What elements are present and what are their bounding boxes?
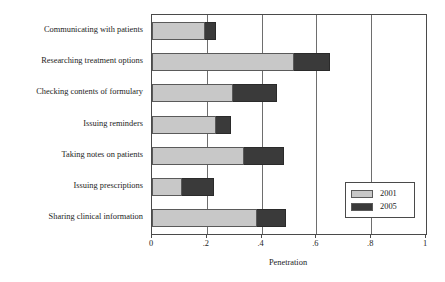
bar-row [152,147,426,165]
bar-segment-2001 [152,178,182,196]
category-label: Communicating with patients [0,25,143,35]
category-axis-labels: Communicating with patientsResearching t… [0,14,147,233]
bar-row [152,22,426,40]
x-tick-label: .8 [367,239,373,248]
x-tick-mark [261,234,262,238]
bar-segment-2001 [152,209,257,227]
x-tick-mark [206,234,207,238]
x-tick-mark [315,234,316,238]
bar-segment-2001 [152,22,205,40]
category-label: Taking notes on patients [0,150,143,160]
x-tick-label: 0 [149,239,153,248]
bar-segment-2001 [152,53,294,71]
x-tick-label: .6 [312,239,318,248]
category-label: Checking contents of formulary [0,87,143,97]
legend-item-2005: 2005 [351,200,409,213]
x-tick-label: .2 [203,239,209,248]
bar-segment-2001 [152,116,216,134]
bar-segment-2001 [152,84,233,102]
bar-row [152,53,426,71]
legend-item-2001: 2001 [351,187,409,200]
category-label: Researching treatment options [0,56,143,66]
penetration-bar-chart: Communicating with patientsResearching t… [0,0,445,282]
bar-row [152,84,426,102]
x-tick-mark [370,234,371,238]
x-tick-mark [425,234,426,238]
x-tick-label: 1 [423,239,427,248]
category-label: Sharing clinical information [0,212,143,222]
category-label: Issuing reminders [0,119,143,129]
bar-segment-2001 [152,147,244,165]
legend-label-2005: 2005 [380,202,397,211]
x-tick-label: .4 [257,239,263,248]
chart-legend: 2001 2005 [345,182,415,218]
legend-label-2001: 2001 [380,189,397,198]
x-axis-title: Penetration [151,258,425,267]
category-label: Issuing prescriptions [0,181,143,191]
bar-row [152,116,426,134]
legend-swatch-2001 [351,190,373,198]
legend-swatch-2005 [351,203,373,211]
x-tick-mark [151,234,152,238]
